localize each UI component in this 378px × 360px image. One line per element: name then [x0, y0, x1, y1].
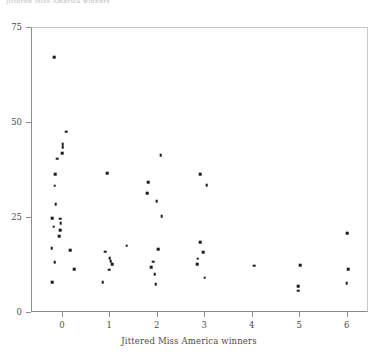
x-tick-mark	[252, 312, 253, 317]
y-tick-mark	[26, 312, 31, 313]
x-tick-label: 2	[154, 320, 159, 330]
x-tick-label: 5	[296, 320, 301, 330]
x-tick-mark	[109, 312, 110, 317]
y-tick-mark	[26, 27, 31, 28]
x-tick-label: 3	[202, 320, 207, 330]
y-tick-label: 50	[0, 117, 22, 127]
x-tick-mark	[62, 312, 63, 317]
x-tick-label: 0	[59, 320, 64, 330]
x-tick-label: 6	[344, 320, 349, 330]
x-tick-label: 1	[107, 320, 112, 330]
top-caption: Jittered Miss America winners	[6, 0, 110, 4]
y-tick-mark	[26, 122, 31, 123]
x-tick-mark	[299, 312, 300, 317]
x-tick-mark	[347, 312, 348, 317]
plot-frame	[31, 27, 368, 312]
y-tick-label: 25	[0, 212, 22, 222]
scatter-plot-figure: Jittered Miss America winners 0255075 01…	[0, 0, 378, 360]
y-tick-mark	[26, 217, 31, 218]
x-axis-title: Jittered Miss America winners	[0, 336, 378, 346]
y-tick-label: 75	[0, 22, 22, 32]
y-tick-label: 0	[0, 307, 22, 317]
x-tick-mark	[204, 312, 205, 317]
x-tick-mark	[157, 312, 158, 317]
x-tick-label: 4	[249, 320, 254, 330]
